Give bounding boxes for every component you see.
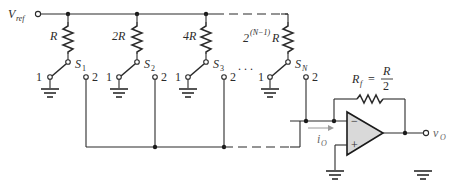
rf-denominator: 2 <box>383 79 389 93</box>
position-2-label: 2 <box>92 70 98 84</box>
position-2-label: 2 <box>161 70 167 84</box>
resistor-label: 4R <box>183 29 197 43</box>
resistor-label-base: 2 <box>243 31 249 45</box>
switch-pivot-icon <box>204 60 209 65</box>
position-2-label: 2 <box>230 70 236 84</box>
ellipsis-label: . . . <box>238 59 253 73</box>
ground-icon <box>414 171 432 179</box>
junction-dot <box>153 145 157 149</box>
resistor-icon <box>283 22 293 54</box>
resistor-icon <box>357 95 383 103</box>
ground-icon <box>326 171 344 179</box>
ground-icon <box>179 89 197 97</box>
io-subscript: O <box>321 139 327 148</box>
branch-1: R S 1 1 2 <box>36 12 98 147</box>
switch-label: S <box>213 57 219 71</box>
rf-equals: = <box>368 72 375 86</box>
resistor-label-exponent: (N−1) <box>250 28 270 37</box>
switch-pivot-icon <box>286 60 291 65</box>
ground-icon <box>110 89 128 97</box>
vo-subscript: O <box>440 133 446 142</box>
position-1-label: 1 <box>36 70 42 84</box>
switch-blade-icon[interactable] <box>52 64 66 76</box>
vref-terminal: V ref <box>8 7 41 23</box>
switch-label: S <box>75 57 81 71</box>
resistor-label: R <box>49 29 58 43</box>
rf-numerator: R <box>382 64 391 78</box>
position-2-terminal-icon <box>222 75 227 80</box>
position-2-terminal-icon <box>84 75 89 80</box>
switch-blade-icon[interactable] <box>121 64 135 76</box>
switch-blade-icon[interactable] <box>190 64 204 76</box>
branch-2: 2R S 2 1 2 <box>106 12 167 147</box>
rf-subscript: f <box>360 79 364 88</box>
position-1-terminal-icon <box>117 75 122 80</box>
ground-icon <box>41 89 59 97</box>
resistor-icon <box>132 22 142 54</box>
position-1-label: 1 <box>106 70 112 84</box>
switch-subscript: 1 <box>82 64 86 73</box>
vo-label: v <box>433 126 439 140</box>
branch-3: 4R S 3 1 2 <box>175 12 236 147</box>
position-1-label: 1 <box>258 70 264 84</box>
arrow-head-icon <box>328 125 334 131</box>
resistor-icon <box>63 22 73 54</box>
resistor-label: 2R <box>112 29 126 43</box>
switch-subscript: 3 <box>220 64 224 73</box>
switch-pivot-icon <box>135 60 140 65</box>
position-1-terminal-icon <box>48 75 53 80</box>
position-2-label: 2 <box>312 70 318 84</box>
position-1-terminal-icon <box>268 75 273 80</box>
junction-dot <box>403 131 407 135</box>
io-label: i <box>317 132 320 146</box>
position-2-terminal-icon <box>304 75 309 80</box>
noninverting-input-sign: + <box>351 138 358 152</box>
branch-n: 2 (N−1) R S N 1 2 <box>243 14 318 121</box>
switch-subscript: N <box>301 64 308 73</box>
io-current-arrow: i O <box>308 125 334 148</box>
position-2-terminal-icon <box>153 75 158 80</box>
vref-subscript: ref <box>16 14 26 23</box>
ground-icon <box>261 89 279 97</box>
junction-dot <box>304 119 308 123</box>
switch-subscript: 2 <box>151 64 155 73</box>
resistor-label-suffix: R <box>271 31 280 45</box>
position-1-label: 1 <box>175 70 181 84</box>
vref-node-icon <box>35 11 40 16</box>
switch-blade-icon[interactable] <box>272 64 286 76</box>
resistor-icon <box>201 22 211 54</box>
feedback-resistor: R f = R 2 <box>334 64 405 133</box>
rf-label: R <box>351 72 360 86</box>
switch-pivot-icon <box>66 60 71 65</box>
position-1-terminal-icon <box>186 75 191 80</box>
inverting-input-sign: − <box>351 114 358 128</box>
switch-label: S <box>144 57 150 71</box>
vo-node-icon <box>423 130 428 135</box>
switch-label: S <box>295 57 301 71</box>
dac-circuit-diagram: V ref R S 1 1 2 2R S 2 1 <box>0 0 459 188</box>
